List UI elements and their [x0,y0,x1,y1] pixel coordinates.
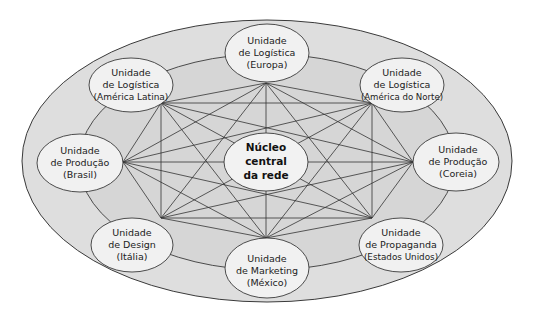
node-label-line-1: Unidade [247,35,286,46]
node-label-line-3: (América do Norte) [361,92,443,102]
node-label-line-3: (América Latina) [94,92,169,102]
node-logistica-america-do-norte: Unidade de Logística (América do Norte) [360,58,444,112]
node-label-line-3: (Brasil) [63,169,97,180]
node-label-line-2: de Logística [374,79,431,90]
node-marketing-mexico: Unidade de Marketing (México) [225,238,309,298]
node-label-line-1: Unidade [247,253,286,264]
node-label-line-2: de Propaganda [365,239,437,250]
core-label-line-2: central [245,155,287,167]
node-label-line-3: (Coreia) [439,168,477,179]
node-producao-brasil: Unidade de Produção (Brasil) [37,134,123,192]
node-label-line-2: de Logística [239,47,296,58]
core-label-line-3: da rede [243,169,288,181]
node-label-line-1: Unidade [438,144,477,155]
node-logistica-europa: Unidade de Logística (Europa) [225,24,309,82]
node-label-line-2: de Logística [103,79,160,90]
node-label-line-2: de Produção [429,156,488,167]
node-label-line-3: (Estados Unidos) [364,252,438,262]
node-label-line-1: Unidade [60,145,99,156]
node-logistica-america-latina: Unidade de Logística (América Latina) [89,58,173,112]
node-label-line-2: de Design [108,239,156,250]
node-label-line-1: Unidade [111,67,150,78]
node-label-line-2: de Marketing [236,265,298,276]
node-label-line-1: Unidade [112,227,151,238]
node-propaganda-estados-unidos: Unidade de Propaganda (Estados Unidos) [359,218,443,272]
node-label-line-3: (México) [247,277,288,288]
node-label-line-1: Unidade [382,67,421,78]
node-label-line-2: de Produção [51,157,110,168]
node-label-line-3: (Europa) [247,59,288,70]
node-label-line-3: (Itália) [117,251,148,262]
node-label-line-1: Unidade [381,227,420,238]
core-label-line-1: Núcleo [246,141,286,153]
core-node: Núcleo central da rede [224,133,308,191]
network-diagram: Núcleo central da rede Unidade de Logíst… [0,0,533,316]
node-design-italia: Unidade de Design (Itália) [91,218,173,272]
node-producao-coreia: Unidade de Produção (Coreia) [413,133,499,191]
